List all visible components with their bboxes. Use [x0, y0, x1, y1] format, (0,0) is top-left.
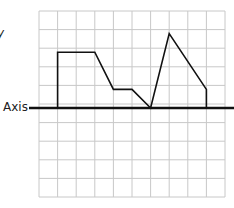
- grid: [39, 11, 225, 197]
- diagram: [0, 0, 234, 208]
- y-label-fragment: y: [0, 26, 4, 40]
- axis-label: Axis: [3, 100, 28, 114]
